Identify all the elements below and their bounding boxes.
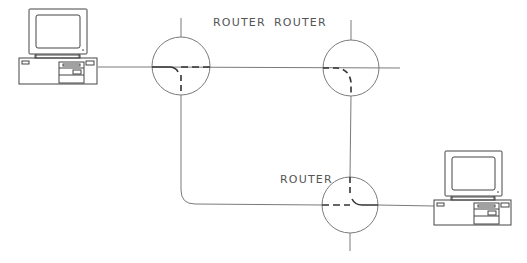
link-router1-router2	[152, 67, 400, 68]
computer-right-icon	[434, 151, 511, 225]
network-diagram: ROUTER ROUTER ROUTER	[0, 0, 527, 263]
router-3-label: ROUTER	[280, 173, 333, 186]
link-router3-computer-right	[378, 205, 434, 206]
link-router1-router3	[181, 95, 322, 205]
diagram-canvas	[0, 0, 527, 263]
router-1-route-solid	[152, 67, 178, 72]
router-2-label: ROUTER	[274, 16, 327, 29]
router-3-route-solid	[352, 199, 378, 205]
computer-left-icon	[19, 9, 97, 84]
router-1-label: ROUTER	[213, 16, 266, 29]
link-router2-router3	[350, 96, 351, 177]
